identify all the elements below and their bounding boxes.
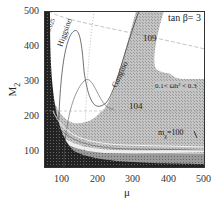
omega-band-label: 0.1< Ωh² < 0.3 [155,82,196,90]
mchi-label: mχ=100 [158,128,183,139]
y-tick-100: 100 [24,145,39,156]
contour-104-label: 104 [129,101,143,111]
contour-109-label: 109 [143,33,157,43]
x-tick-400: 400 [161,173,176,184]
y-axis-label: M2 [6,78,21,102]
tan-beta-label: tan β= 3 [168,12,201,23]
x-axis-label: μ [124,186,130,198]
x-tick-100: 100 [54,173,69,184]
y-label-sub: 2 [13,83,22,87]
x-tick-300: 300 [125,173,140,184]
y-tick-500: 500 [24,5,39,16]
mchi-val: =100 [167,128,184,137]
y-tick-400: 400 [24,40,39,51]
y-label-main: M [6,87,18,97]
x-tick-500: 500 [196,173,211,184]
y-tick-300: 300 [24,75,39,86]
y-tick-200: 200 [24,110,39,121]
x-tick-200: 200 [90,173,105,184]
